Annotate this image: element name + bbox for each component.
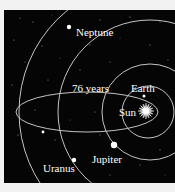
- jupiter-label: Jupiter: [92, 153, 122, 165]
- earth-label: Earth: [131, 82, 155, 94]
- sun-label: Sun: [119, 106, 137, 118]
- earth-dot-icon: [143, 95, 146, 98]
- jupiter-dot-icon: [111, 142, 117, 148]
- neptune-label: Neptune: [76, 26, 113, 38]
- comet-dot-icon: [42, 131, 45, 134]
- solar-system-diagram: Neptune 76 years Earth Sun Jupiter Uranu…: [0, 0, 175, 192]
- neptune-dot-icon: [67, 25, 71, 29]
- comet-period-label: 76 years: [72, 82, 109, 94]
- uranus-label: Uranus: [43, 162, 75, 174]
